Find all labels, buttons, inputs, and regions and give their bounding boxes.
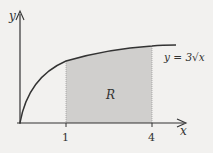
tick-label-4: 4 <box>148 131 155 144</box>
diagram: y x 1 4 R y = 3√x <box>0 0 213 153</box>
y-axis-label: y <box>8 9 16 23</box>
curve-label: y = 3√x <box>163 51 205 63</box>
x-axis-label: x <box>180 124 187 138</box>
tick-label-1: 1 <box>62 131 69 144</box>
diagram-canvas: y x 1 4 R y = 3√x <box>0 0 213 153</box>
region-label: R <box>105 88 115 102</box>
